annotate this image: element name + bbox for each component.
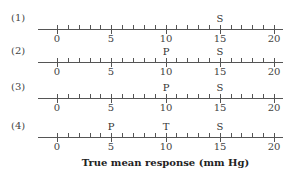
minor-tick bbox=[133, 133, 134, 138]
minor-tick bbox=[263, 133, 264, 138]
tick-label: 5 bbox=[101, 33, 121, 44]
minor-tick bbox=[252, 58, 253, 63]
minor-tick bbox=[100, 25, 101, 30]
minor-tick bbox=[79, 94, 80, 99]
minor-tick bbox=[68, 25, 69, 30]
tick-label: 5 bbox=[101, 102, 121, 113]
number-line-axis bbox=[38, 137, 283, 138]
marker-label: S bbox=[213, 121, 227, 132]
number-line-axis bbox=[38, 98, 283, 99]
minor-tick bbox=[176, 25, 177, 30]
minor-tick bbox=[198, 94, 199, 99]
minor-tick bbox=[176, 133, 177, 138]
minor-tick bbox=[133, 58, 134, 63]
minor-tick bbox=[209, 58, 210, 63]
minor-tick bbox=[187, 133, 188, 138]
minor-tick bbox=[263, 25, 264, 30]
minor-tick bbox=[176, 58, 177, 63]
minor-tick bbox=[252, 25, 253, 30]
minor-tick bbox=[241, 133, 242, 138]
tick-label: 20 bbox=[264, 33, 284, 44]
minor-tick bbox=[231, 25, 232, 30]
minor-tick bbox=[155, 25, 156, 30]
marker-label: S bbox=[213, 13, 227, 24]
tick-label: 15 bbox=[210, 66, 230, 77]
tick-label: 0 bbox=[47, 33, 67, 44]
minor-tick bbox=[209, 94, 210, 99]
minor-tick bbox=[90, 58, 91, 63]
minor-tick bbox=[263, 58, 264, 63]
minor-tick bbox=[252, 94, 253, 99]
tick-label: 10 bbox=[156, 102, 176, 113]
tick-label: 10 bbox=[156, 33, 176, 44]
tick-label: 5 bbox=[101, 66, 121, 77]
x-axis-title: True mean response (mm Hg) bbox=[0, 157, 297, 168]
minor-tick bbox=[144, 133, 145, 138]
minor-tick bbox=[209, 133, 210, 138]
tick-label: 15 bbox=[210, 141, 230, 152]
minor-tick bbox=[187, 58, 188, 63]
minor-tick bbox=[100, 94, 101, 99]
row-label: (3) bbox=[11, 81, 25, 92]
minor-tick bbox=[155, 94, 156, 99]
minor-tick bbox=[90, 25, 91, 30]
minor-tick bbox=[68, 94, 69, 99]
minor-tick bbox=[79, 25, 80, 30]
marker-label: S bbox=[213, 82, 227, 93]
minor-tick bbox=[198, 58, 199, 63]
minor-tick bbox=[100, 133, 101, 138]
minor-tick bbox=[79, 58, 80, 63]
minor-tick bbox=[144, 94, 145, 99]
row-label: (4) bbox=[11, 120, 25, 131]
minor-tick bbox=[79, 133, 80, 138]
marker-label: P bbox=[104, 121, 118, 132]
minor-tick bbox=[231, 58, 232, 63]
minor-tick bbox=[198, 25, 199, 30]
tick-label: 0 bbox=[47, 66, 67, 77]
minor-tick bbox=[241, 25, 242, 30]
minor-tick bbox=[122, 25, 123, 30]
tick-label: 0 bbox=[47, 102, 67, 113]
tick-label: 5 bbox=[101, 141, 121, 152]
tick-label: 20 bbox=[264, 66, 284, 77]
minor-tick bbox=[133, 25, 134, 30]
tick-label: 20 bbox=[264, 141, 284, 152]
minor-tick bbox=[241, 94, 242, 99]
minor-tick bbox=[144, 58, 145, 63]
number-line-axis bbox=[38, 29, 283, 30]
minor-tick bbox=[176, 94, 177, 99]
minor-tick bbox=[90, 133, 91, 138]
tick-label: 15 bbox=[210, 102, 230, 113]
minor-tick bbox=[263, 94, 264, 99]
number-line-axis bbox=[38, 62, 283, 63]
tick-label: 10 bbox=[156, 141, 176, 152]
tick-label: 0 bbox=[47, 141, 67, 152]
minor-tick bbox=[68, 133, 69, 138]
minor-tick bbox=[122, 58, 123, 63]
minor-tick bbox=[68, 58, 69, 63]
minor-tick bbox=[187, 25, 188, 30]
minor-tick bbox=[209, 25, 210, 30]
marker-label: T bbox=[159, 121, 173, 132]
minor-tick bbox=[90, 94, 91, 99]
minor-tick bbox=[155, 58, 156, 63]
minor-tick bbox=[241, 58, 242, 63]
marker-label: P bbox=[159, 82, 173, 93]
row-label: (1) bbox=[11, 12, 25, 23]
tick-label: 10 bbox=[156, 66, 176, 77]
minor-tick bbox=[252, 133, 253, 138]
minor-tick bbox=[133, 94, 134, 99]
tick-label: 15 bbox=[210, 33, 230, 44]
minor-tick bbox=[231, 94, 232, 99]
minor-tick bbox=[144, 25, 145, 30]
minor-tick bbox=[231, 133, 232, 138]
tick-label: 20 bbox=[264, 102, 284, 113]
minor-tick bbox=[122, 94, 123, 99]
minor-tick bbox=[122, 133, 123, 138]
minor-tick bbox=[155, 133, 156, 138]
marker-label: S bbox=[213, 46, 227, 57]
minor-tick bbox=[187, 94, 188, 99]
minor-tick bbox=[198, 133, 199, 138]
row-label: (2) bbox=[11, 45, 25, 56]
minor-tick bbox=[100, 58, 101, 63]
